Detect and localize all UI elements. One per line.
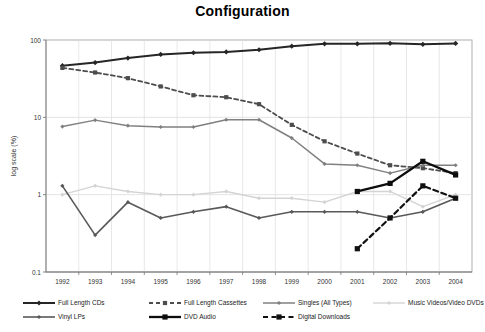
series-marker xyxy=(60,66,64,70)
series-marker xyxy=(355,151,359,155)
series-marker xyxy=(355,189,360,194)
y-axis-tick-label: 10 xyxy=(34,114,42,121)
x-axis-tick-label: 1994 xyxy=(121,278,136,285)
series-marker xyxy=(159,84,163,88)
legend-item-label: Digital Downloads xyxy=(298,312,350,322)
legend-item[interactable]: DVD Audio xyxy=(148,310,216,324)
x-axis-tick-label: 1999 xyxy=(285,278,300,285)
legend-item[interactable]: Digital Downloads xyxy=(262,310,350,324)
x-axis-tick-label: 2000 xyxy=(317,278,332,285)
series-marker xyxy=(420,183,425,188)
x-axis-tick-label: 2001 xyxy=(350,278,365,285)
legend-swatch-icon xyxy=(148,312,182,322)
legend-item-label: Singles (All Types) xyxy=(298,298,352,308)
legend-item-label: Full Length CDs xyxy=(58,298,105,308)
series-marker xyxy=(322,139,326,143)
legend-item[interactable]: Vinyl LPs xyxy=(22,310,85,324)
legend-swatch-icon xyxy=(262,312,296,322)
series-marker xyxy=(387,215,392,220)
x-axis-tick-label: 2004 xyxy=(448,278,463,285)
legend-swatch-icon xyxy=(22,312,56,322)
y-axis-tick-label: 100 xyxy=(30,37,41,44)
legend-item[interactable]: Singles (All Types) xyxy=(262,296,352,310)
x-axis-tick-label: 1993 xyxy=(88,278,103,285)
x-axis-tick-label: 2002 xyxy=(383,278,398,285)
chart-container: Configuration 1001010.119921993199419951… xyxy=(0,0,485,332)
series-marker xyxy=(93,70,97,74)
x-axis-tick-label: 1997 xyxy=(219,278,234,285)
series-marker xyxy=(420,159,425,164)
plot-frame xyxy=(46,40,472,272)
series-marker xyxy=(126,76,130,80)
legend-row: Vinyl LPsDVD AudioDigital Downloads xyxy=(0,310,485,324)
series-marker xyxy=(388,163,392,167)
legend-item[interactable]: Full Length Cassettes xyxy=(148,296,247,310)
chart-legend: Full Length CDsFull Length CassettesSing… xyxy=(0,296,485,330)
series-marker xyxy=(257,102,261,106)
y-axis-tick-label: 0.1 xyxy=(32,269,41,276)
legend-swatch-icon xyxy=(22,298,56,308)
y-axis-title: log scale (%) xyxy=(10,136,18,176)
series-marker xyxy=(355,246,360,251)
y-axis-tick-label: 1 xyxy=(37,191,41,198)
series-marker xyxy=(453,196,458,201)
series-marker xyxy=(290,123,294,127)
legend-swatch-icon xyxy=(148,298,182,308)
x-axis-tick-label: 1992 xyxy=(55,278,70,285)
x-axis-tick-label: 2003 xyxy=(416,278,431,285)
legend-swatch-icon xyxy=(262,298,296,308)
x-axis-tick-label: 1995 xyxy=(153,278,168,285)
series-marker xyxy=(191,93,195,97)
legend-item-label: Full Length Cassettes xyxy=(184,298,247,308)
legend-item-label: DVD Audio xyxy=(184,312,216,322)
legend-swatch-icon xyxy=(372,298,406,308)
legend-item-label: Music Videos/Video DVDs xyxy=(408,298,484,308)
series-marker xyxy=(453,172,458,177)
chart-plot-area: 1001010.11992199319941995199619971998199… xyxy=(0,0,485,332)
legend-item[interactable]: Music Videos/Video DVDs xyxy=(372,296,484,310)
x-axis-tick-label: 1996 xyxy=(186,278,201,285)
series-marker xyxy=(224,95,228,99)
legend-item[interactable]: Full Length CDs xyxy=(22,296,105,310)
x-axis-tick-label: 1998 xyxy=(252,278,267,285)
series-marker xyxy=(387,181,392,186)
legend-item-label: Vinyl LPs xyxy=(58,312,85,322)
legend-row: Full Length CDsFull Length CassettesSing… xyxy=(0,296,485,310)
